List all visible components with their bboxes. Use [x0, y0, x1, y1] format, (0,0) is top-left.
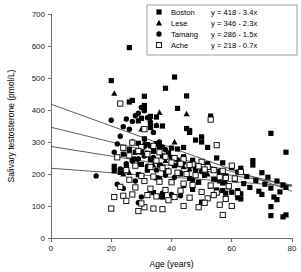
point-marker-open-square — [232, 176, 237, 181]
point-marker-open-square — [127, 177, 132, 182]
legend-label-ache: Ache — [171, 41, 188, 50]
point-marker-open-square — [202, 200, 207, 205]
point-marker-square — [283, 150, 288, 155]
point-marker-open-square — [187, 195, 192, 200]
y-axis-title: Salivary testosterone (pmol/L) — [6, 69, 16, 182]
point-marker-open-square — [130, 192, 135, 197]
point-marker-open-square — [223, 196, 228, 201]
point-marker-square — [196, 180, 201, 185]
point-marker-open-square — [136, 148, 141, 153]
point-marker-open-square — [217, 175, 222, 180]
point-marker-open-square — [139, 173, 144, 178]
point-marker-open-square — [160, 166, 165, 171]
point-marker-circle — [109, 118, 114, 123]
point-marker-square — [121, 152, 126, 157]
point-marker-open-square — [229, 203, 234, 208]
point-marker-circle — [112, 150, 117, 155]
point-marker-open-square — [118, 101, 123, 106]
point-marker-triangle — [184, 111, 190, 117]
point-marker-square — [214, 155, 219, 160]
point-marker-open-square — [238, 169, 243, 174]
point-marker-square — [265, 175, 270, 180]
point-marker-open-square — [136, 209, 141, 214]
point-marker-open-square — [163, 187, 168, 192]
point-marker-open-square — [109, 206, 114, 211]
point-marker-square — [283, 185, 288, 190]
x-axis-title: Age (years) — [150, 259, 194, 269]
data-points-layer — [93, 45, 288, 219]
point-marker-square — [163, 86, 168, 91]
point-marker-open-square — [133, 185, 138, 190]
point-marker-square — [250, 158, 255, 163]
y-tick-label: 500 — [32, 74, 46, 83]
point-marker-open-square — [208, 117, 213, 122]
point-marker-open-square — [166, 169, 171, 174]
point-marker-square — [229, 190, 234, 195]
point-marker-open-square — [127, 153, 132, 158]
point-marker-open-square — [181, 203, 186, 208]
point-marker-square — [220, 160, 225, 165]
point-marker-open-square — [217, 202, 222, 207]
point-marker-square — [262, 182, 267, 187]
point-marker-open-square — [235, 191, 240, 196]
point-marker-square — [199, 134, 204, 139]
point-marker-square — [205, 145, 210, 150]
x-tick-label: 0 — [49, 244, 54, 253]
point-marker-circle — [133, 113, 138, 118]
point-marker-open-square — [157, 179, 162, 184]
point-marker-open-square — [124, 168, 129, 173]
point-marker-square — [112, 168, 117, 173]
point-marker-open-square — [148, 164, 153, 169]
point-marker-square — [142, 94, 147, 99]
point-marker-circle — [156, 31, 161, 36]
point-marker-open-square — [145, 152, 150, 157]
point-marker-circle — [121, 124, 126, 129]
point-marker-square — [259, 170, 264, 175]
y-tick-label: 300 — [32, 138, 46, 147]
point-marker-square — [109, 78, 114, 83]
point-marker-open-square — [214, 143, 219, 148]
point-marker-open-square — [151, 143, 156, 148]
legend[interactable]: Bostony = 418 - 3.4xLesey = 346 - 2.3xTa… — [147, 5, 297, 55]
point-marker-circle — [118, 134, 123, 139]
point-marker-open-square — [229, 163, 234, 168]
legend-equation-boston: y = 418 - 3.4x — [211, 8, 257, 17]
point-marker-triangle — [156, 109, 162, 115]
y-tick-label: 600 — [32, 42, 46, 51]
legend-equation-lese: y = 346 - 2.3x — [211, 19, 257, 28]
point-marker-open-square — [166, 198, 171, 203]
point-marker-circle — [163, 147, 168, 152]
point-marker-circle — [154, 167, 159, 172]
point-marker-square — [127, 45, 132, 50]
point-marker-square — [268, 131, 273, 136]
point-marker-circle — [154, 123, 159, 128]
point-marker-square — [253, 178, 258, 183]
point-marker-open-square — [133, 163, 138, 168]
point-marker-open-square — [184, 171, 189, 176]
point-marker-open-square — [187, 162, 192, 167]
point-marker-circle — [148, 121, 153, 126]
legend-label-tamang: Tamang — [171, 30, 198, 39]
point-marker-square — [238, 196, 243, 201]
point-marker-open-square — [178, 188, 183, 193]
point-marker-square — [169, 145, 174, 150]
point-marker-open-square — [172, 194, 177, 199]
x-tick-label: 80 — [288, 244, 297, 253]
point-marker-open-square — [151, 206, 156, 211]
point-marker-circle — [145, 115, 150, 120]
point-marker-circle — [142, 108, 147, 113]
point-marker-open-square — [190, 182, 195, 187]
point-marker-open-square — [148, 186, 153, 191]
point-marker-square — [274, 197, 279, 202]
point-marker-circle — [136, 156, 141, 161]
point-marker-circle — [124, 116, 129, 121]
point-marker-circle — [127, 127, 132, 132]
point-marker-open-square — [211, 193, 216, 198]
point-marker-square — [277, 189, 282, 194]
point-marker-open-square — [211, 168, 216, 173]
point-marker-open-square — [220, 212, 225, 217]
point-marker-square — [274, 178, 279, 183]
point-marker-square — [172, 74, 177, 79]
point-marker-open-square — [175, 170, 180, 175]
point-marker-square — [199, 139, 204, 144]
